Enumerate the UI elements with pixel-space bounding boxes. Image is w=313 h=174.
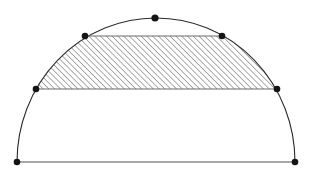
vertex-dot-mid-chord-left: [33, 86, 40, 93]
vertex-dot-upper-chord-right: [219, 33, 226, 40]
hatch-fill: [0, 36, 313, 89]
vertex-dot-arc-apex: [151, 14, 158, 21]
vertex-dot-mid-chord-right: [274, 86, 281, 93]
hatched-region: [0, 36, 313, 89]
vertex-dot-baseline-right: [292, 159, 299, 166]
figure-canvas: [0, 0, 313, 174]
vertex-dot-upper-chord-left: [82, 33, 89, 40]
geometry-figure: [0, 0, 313, 174]
vertex-dot-baseline-left: [14, 159, 21, 166]
